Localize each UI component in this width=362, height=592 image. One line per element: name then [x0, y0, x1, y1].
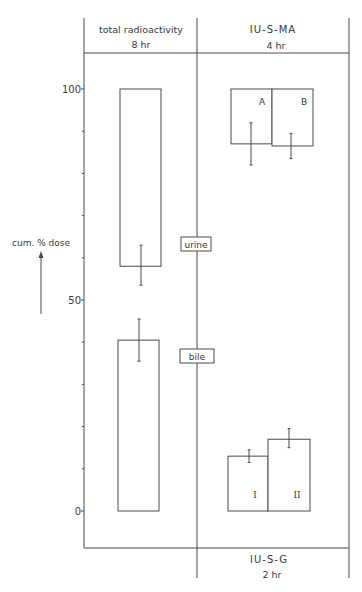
y-tick-label-100: 100 — [62, 84, 81, 95]
footer-iu-s-g: IU-S-G — [250, 554, 288, 565]
up-arrow-icon — [39, 251, 44, 314]
bar-b-label: B — [301, 97, 307, 107]
bile-label: bile — [189, 352, 206, 362]
bar-urine — [120, 89, 161, 285]
bar-ii — [268, 429, 310, 511]
figure: 100 50 0 cum. % dose total radioactivity… — [0, 0, 362, 592]
urine-label: urine — [184, 240, 208, 250]
header-total-radioactivity: total radioactivity — [99, 24, 183, 35]
urine-label-box: urine — [181, 237, 211, 251]
bar-i — [228, 450, 268, 511]
y-axis-label: cum. % dose — [12, 238, 70, 248]
bile-label-box: bile — [180, 349, 214, 363]
y-tick-label-50: 50 — [68, 295, 81, 306]
footer-iu-s-g-time: 2 hr — [263, 569, 282, 580]
bar-a-label: A — [259, 97, 266, 107]
bars — [118, 89, 313, 511]
bar-bile — [118, 319, 159, 511]
header-total-radioactivity-time: 8 hr — [132, 39, 151, 50]
bar-a — [231, 89, 272, 165]
y-tick-label-0: 0 — [75, 506, 81, 517]
header-iu-s-ma-time: 4 hr — [267, 40, 286, 51]
bar-ii-label: II — [293, 490, 301, 500]
header-iu-s-ma: IU-S-MA — [250, 24, 296, 35]
bar-i-label: I — [253, 490, 257, 500]
